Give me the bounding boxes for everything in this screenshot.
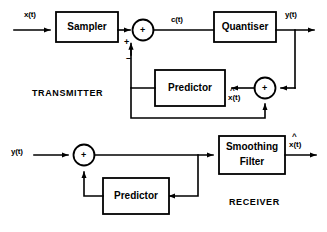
summer-2-inner-sign: + — [262, 84, 267, 93]
receiver-predictor-label: Predictor — [103, 191, 169, 201]
wire-receiver-tap-down — [169, 155, 198, 196]
smoothing-filter-label-line2: Filter — [219, 157, 285, 167]
receiver-input-label: y(t) — [11, 148, 23, 156]
transmitter-section-label: TRANSMITTER — [32, 89, 103, 98]
receiver-summer-inner-sign: + — [81, 151, 86, 160]
summer-1-inner-sign: + — [140, 26, 145, 35]
wire-receiver-predictor-feedback — [84, 172, 103, 196]
transmitter-input-label: x(t) — [24, 11, 36, 19]
receiver-section-label: RECEIVER — [229, 198, 280, 207]
smoothing-filter-label-line1: Smoothing — [219, 142, 285, 152]
wire-predictor-to-summer1 — [131, 47, 155, 88]
transmitter-predictor-label: Predictor — [155, 83, 225, 93]
quantiser-label: Quantiser — [214, 22, 276, 32]
transmitter-output-label: y(t) — [285, 11, 297, 19]
summer-1-left-sign: + — [124, 38, 129, 47]
prediction-signal-label: x(t) — [228, 94, 240, 102]
receiver-output-label: x(t) — [289, 141, 301, 149]
summer-1-bottom-sign: – — [126, 54, 131, 63]
error-signal-label: c(t) — [171, 16, 183, 24]
sampler-label: Sampler — [56, 22, 118, 32]
